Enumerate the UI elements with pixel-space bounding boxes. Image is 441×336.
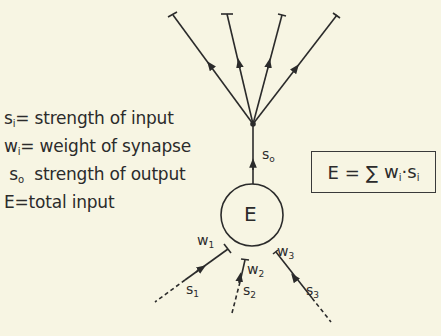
weight-symbol: w — [197, 232, 208, 248]
weight-symbol: w — [277, 243, 288, 259]
weight-label-2: w2 — [247, 261, 264, 279]
formula-equals: = — [345, 162, 360, 183]
weight-subscript: 1 — [208, 240, 214, 250]
legend-separator: = — [15, 108, 29, 128]
output-branch-4 — [253, 13, 340, 124]
legend-item-e: E=total input — [4, 191, 191, 213]
weight-subscript: 3 — [288, 251, 294, 261]
legend: si= strength of input wi= weight of syna… — [4, 107, 191, 213]
legend-subscript: o — [18, 174, 24, 185]
legend-text: strength of output — [34, 164, 185, 184]
summation-icon: ∑ — [366, 162, 378, 183]
legend-symbol: s — [9, 164, 18, 184]
legend-item-wi: wi= weight of synapse — [4, 135, 191, 163]
legend-text: strength of input — [35, 108, 174, 128]
signal-label-3: s3 — [306, 282, 319, 300]
neuron-label: E — [244, 202, 257, 226]
formula-s: s — [407, 161, 416, 182]
output-branch-3 — [253, 14, 286, 124]
output-label: so — [262, 146, 275, 164]
legend-text: total input — [29, 192, 115, 212]
legend-symbol: w — [4, 136, 18, 156]
formula-box: E = ∑ wi·si — [311, 151, 436, 193]
legend-text: weight of synapse — [40, 136, 191, 156]
legend-symbol: E — [4, 192, 15, 212]
signal-subscript: 3 — [313, 290, 319, 300]
weight-label-3: w3 — [277, 243, 294, 261]
signal-subscript: 2 — [250, 290, 256, 300]
weight-symbol: w — [247, 261, 258, 277]
formula-lhs: E — [327, 162, 338, 183]
output-branch-2 — [221, 14, 253, 124]
weight-label-1: w1 — [197, 232, 214, 250]
signal-label-2: s2 — [243, 282, 256, 300]
weight-subscript: 2 — [258, 269, 264, 279]
legend-symbol: s — [4, 108, 13, 128]
legend-separator: = — [15, 192, 29, 212]
legend-item-so: so strength of output — [4, 163, 191, 191]
signal-subscript: 1 — [193, 289, 199, 299]
formula-product: wi·si — [384, 161, 419, 183]
legend-item-si: si= strength of input — [4, 107, 191, 135]
formula-w: w — [384, 161, 399, 182]
signal-label-1: s1 — [186, 281, 199, 299]
output-subscript: o — [269, 154, 275, 164]
legend-separator: = — [20, 136, 34, 156]
formula-s-sub: i — [417, 172, 420, 183]
